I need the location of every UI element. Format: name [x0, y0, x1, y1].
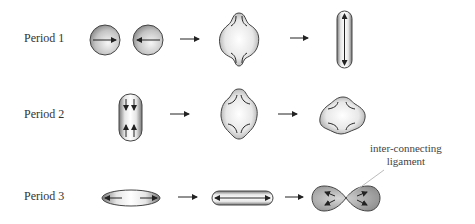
period-1-droplet-right	[133, 25, 163, 55]
period-3-separating-droplet	[312, 186, 380, 211]
period-2-flattened-droplet	[320, 97, 365, 134]
period-3-stretched-droplet	[212, 191, 273, 205]
period-2-capsule-droplet	[119, 94, 142, 141]
period-2-merged-droplet	[221, 89, 257, 139]
droplet-collision-diagram	[0, 0, 475, 224]
period-1-droplet-left	[90, 25, 120, 55]
period-1-merged-droplet	[219, 13, 258, 66]
period-3-elongated-droplet	[102, 190, 160, 206]
period-1-stretched-droplet	[337, 11, 352, 68]
